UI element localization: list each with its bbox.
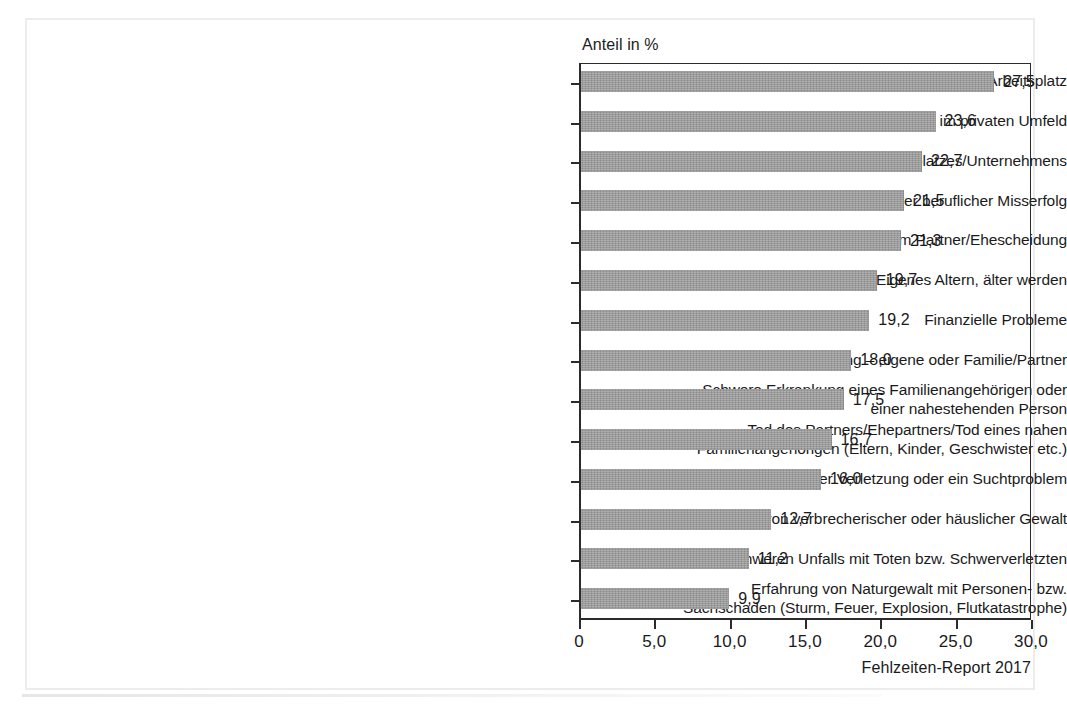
x-axis-tick [956,620,958,629]
x-axis-tick-label: 30,0 [1014,632,1048,652]
x-axis-tick-label: 15,0 [788,632,822,652]
x-axis-tick [579,620,581,629]
x-axis-tick [654,620,656,629]
source-note: Fehlzeiten-Report 2017 [862,659,1031,677]
x-axis-tick-label: 20,0 [863,632,897,652]
x-axis-tick [730,620,732,629]
plot-area [579,63,1031,620]
x-axis-tick-label: 10,0 [713,632,747,652]
x-axis-tick-label: 25,0 [939,632,973,652]
x-axis-tick [805,620,807,629]
scan-artifact [22,694,882,697]
x-axis-tick [880,620,882,629]
chart-figure: Anteil in % Streit oder Mobbing am Arbei… [0,0,1067,716]
x-axis-tick [1031,620,1033,629]
x-axis-tick-label: 0 [574,632,584,652]
axis-title: Anteil in % [582,36,659,54]
x-axis-tick-label: 5,0 [642,632,666,652]
